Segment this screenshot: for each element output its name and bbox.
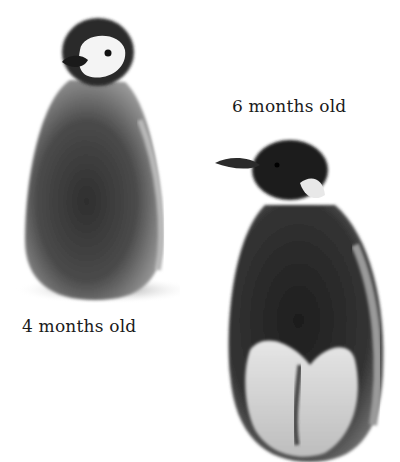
penguin-chick-6-months-photo <box>205 135 395 462</box>
caption-4-months: 4 months old <box>22 316 136 336</box>
penguin-chick-4-months-photo <box>10 10 180 305</box>
caption-6-months: 6 months old <box>232 96 346 116</box>
